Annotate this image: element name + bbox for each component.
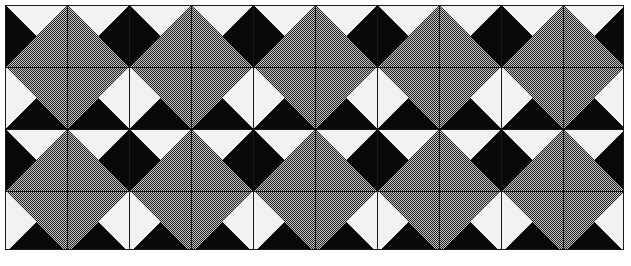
quilt-canvas bbox=[5, 5, 624, 250]
quilt-cell-layer bbox=[5, 5, 624, 250]
quilt-tiling-svg bbox=[5, 5, 624, 250]
quilt-image-stage: Diamond Star / Pinwheel quilt repeat Qui… bbox=[0, 0, 631, 266]
